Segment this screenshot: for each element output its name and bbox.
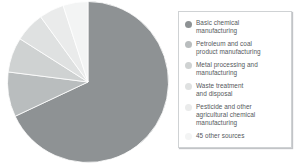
legend-item[interactable]: Petroleum and coal product manufacturing (185, 40, 286, 56)
legend-panel: Basic chemical manufacturingPetroleum an… (178, 11, 292, 148)
legend-item[interactable]: Basic chemical manufacturing (185, 19, 286, 35)
legend-item-label: Metal processing and manufacturing (196, 61, 258, 77)
pie-chart-svg (0, 0, 175, 164)
legend-swatch-petroleum-coal (185, 41, 192, 48)
legend-item[interactable]: Waste treatment and disposal (185, 82, 286, 98)
legend-item-label: Petroleum and coal product manufacturing (196, 40, 261, 56)
legend-item[interactable]: Metal processing and manufacturing (185, 61, 286, 77)
legend-item-label: Pesticide and other agricultural chemica… (196, 103, 255, 128)
legend-list: Basic chemical manufacturingPetroleum an… (185, 19, 286, 140)
legend-item[interactable]: 45 other sources (185, 132, 286, 141)
pie-slices-group (7, 1, 168, 162)
legend-item[interactable]: Pesticide and other agricultural chemica… (185, 103, 286, 128)
legend-swatch-basic-chemical (185, 21, 192, 28)
legend-swatch-waste-treatment (185, 83, 192, 90)
legend-item-label: Basic chemical manufacturing (196, 19, 239, 35)
legend-item-label: 45 other sources (196, 132, 244, 140)
legend-swatch-metal-processing (185, 62, 192, 69)
legend-item-label: Waste treatment and disposal (196, 82, 243, 98)
pie-chart-area (0, 0, 175, 164)
legend-swatch-other-sources (185, 133, 192, 140)
pie-chart-figure: Basic chemical manufacturingPetroleum an… (0, 0, 301, 164)
legend-swatch-pesticide (185, 104, 192, 111)
